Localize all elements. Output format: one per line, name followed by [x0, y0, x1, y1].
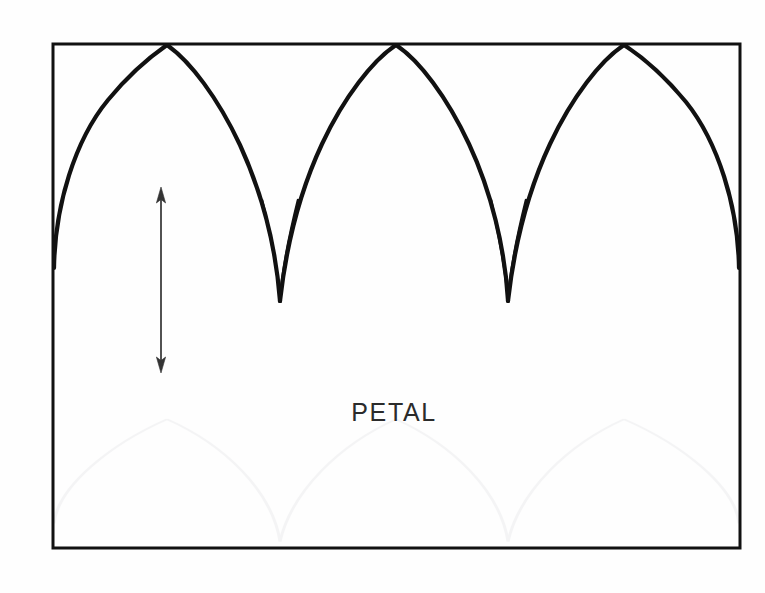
petal-arch-group: [54, 45, 739, 301]
outer-rectangle-frame: [53, 44, 740, 548]
page-bleed-ghost: [54, 419, 739, 541]
arch-3-left-limb: [508, 45, 624, 301]
petal-diagram-svg: PETAL: [0, 0, 765, 593]
arch-3-right-limb: [624, 45, 739, 268]
arch-2-right-limb-taper: [491, 200, 508, 301]
height-dimension-arrow: [156, 187, 165, 373]
arch-2-right-limb: [396, 45, 508, 301]
arch-1-right-limb: [167, 45, 280, 301]
arch-2-left-limb: [280, 45, 396, 301]
figure-canvas: PETAL: [0, 0, 765, 593]
arch-1-left-limb: [54, 45, 167, 268]
petal-label: PETAL: [351, 398, 436, 426]
